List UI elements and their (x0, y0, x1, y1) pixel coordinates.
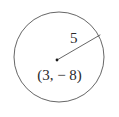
geometry-figure: (x - 3) + (y + 8) = 25 5 (3, − 8) (0, 0, 119, 117)
center-dot (56, 59, 59, 62)
circle-diagram-canvas (0, 0, 119, 117)
radius-length-label: 5 (0, 31, 119, 46)
center-coordinates-label: (3, − 8) (0, 68, 119, 83)
circle-outline (14, 12, 104, 102)
